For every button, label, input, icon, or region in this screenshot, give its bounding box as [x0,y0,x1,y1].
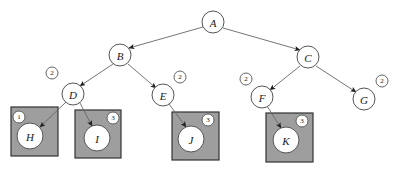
node-label-h: H [25,131,35,143]
edge-c-to-f [270,66,300,90]
badge-k: 3 [296,115,308,127]
node-k[interactable]: K [273,127,299,153]
node-label-g: G [360,94,368,106]
node-f[interactable]: F [251,86,273,108]
node-a[interactable]: A [202,11,224,33]
tree-diagram-canvas: ABCDEFGHIJK 22221333 [0,0,399,171]
leaf-box-layer [11,107,313,162]
node-layer: ABCDEFGHIJK [17,11,375,153]
edge-b-to-e [128,64,156,88]
edge-a-to-b [129,27,203,48]
edge-a-to-c [223,28,300,50]
badge-label-d: 2 [50,69,54,77]
badge-label-g: 2 [380,77,384,85]
node-j[interactable]: J [178,126,204,152]
badge-label-j: 3 [206,116,210,124]
badge-label-f: 2 [244,75,248,83]
badge-d: 2 [46,67,58,79]
badge-label-h: 1 [17,113,21,121]
node-label-d: D [68,89,77,101]
node-e[interactable]: E [152,84,174,106]
node-b[interactable]: B [109,44,131,66]
node-label-e: E [159,90,167,102]
node-h[interactable]: H [17,123,43,149]
tree-diagram-svg: ABCDEFGHIJK 22221333 [0,0,399,171]
node-i[interactable]: I [84,125,110,151]
node-d[interactable]: D [62,83,84,105]
badge-label-e: 2 [178,73,182,81]
badge-label-i: 3 [111,114,115,122]
badge-f: 2 [240,73,252,85]
node-label-b: B [117,50,124,62]
node-c[interactable]: C [297,46,319,68]
edge-b-to-d [80,64,113,86]
node-label-f: F [258,92,266,104]
node-label-a: A [209,17,217,29]
badge-i: 3 [107,112,119,124]
badge-e: 2 [174,71,186,83]
badge-g: 2 [376,75,388,87]
edge-c-to-g [316,66,356,92]
badge-label-k: 3 [300,117,304,125]
badge-h: 1 [13,111,25,123]
node-g[interactable]: G [353,88,375,110]
badge-j: 3 [202,114,214,126]
node-label-c: C [304,52,312,64]
node-label-k: K [281,135,290,147]
